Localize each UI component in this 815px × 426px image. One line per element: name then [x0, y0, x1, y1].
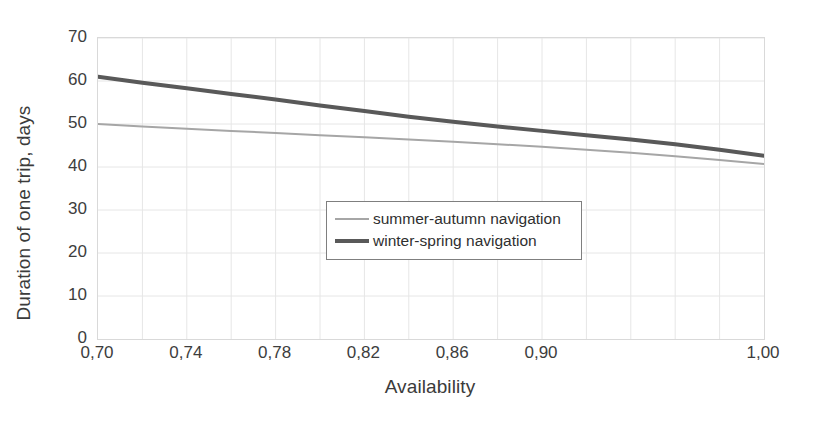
legend-item-label: summer-autumn navigation — [373, 210, 561, 228]
legend-line-swatch-icon — [335, 218, 369, 220]
legend-item-label: winter-spring navigation — [373, 232, 537, 250]
x-axis-tick-label: 1,00 — [746, 343, 779, 363]
chart-container: Duration of one trip, days 0102030405060… — [0, 0, 815, 426]
x-axis-tick-label: 0,70 — [80, 343, 113, 363]
x-axis-tick-label: 0,86 — [436, 343, 469, 363]
x-axis-tick-label: 0,74 — [169, 343, 202, 363]
x-axis-title: Availability — [97, 376, 763, 398]
legend-line-swatch-icon — [335, 239, 369, 243]
x-axis-tick-label: 0,78 — [258, 343, 291, 363]
plot-area — [97, 37, 765, 340]
data-series-line — [98, 77, 764, 156]
data-series-group — [98, 77, 764, 164]
legend-item-winter-spring: winter-spring navigation — [335, 230, 573, 252]
legend: summer-autumn navigation winter-spring n… — [326, 201, 582, 260]
legend-item-summer-autumn: summer-autumn navigation — [335, 208, 573, 230]
gridlines — [98, 38, 764, 339]
plot-svg — [98, 38, 764, 339]
x-axis-tick-label: 0,82 — [347, 343, 380, 363]
x-axis-tick-label: 0,90 — [524, 343, 557, 363]
